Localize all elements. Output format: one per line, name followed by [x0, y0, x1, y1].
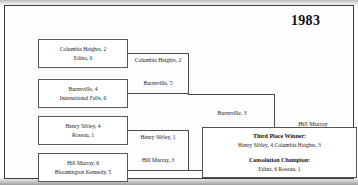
round2-upper-spine	[188, 53, 189, 94]
third-place-result: Henry Sibley, 4 Columbia Heights, 3	[238, 141, 321, 150]
round2-lower-spine	[188, 130, 189, 171]
round2-lower-connector-top	[128, 130, 189, 131]
extras-box: Third Place Winner: Henry Sibley, 4 Colu…	[202, 127, 357, 178]
round2-upper-connector-bottom	[128, 93, 189, 94]
round2-game-2-bottom: Hill Murray, 3	[128, 156, 188, 164]
round2-game-1-bottom: Burnsville, 5	[128, 79, 188, 87]
round2-game-2-top: Henry Sibley, 1	[128, 133, 188, 141]
round2-upper-connector-top	[128, 53, 189, 54]
round1-game-1-bottom: Edina, 0	[74, 54, 93, 63]
tournament-year: 1983	[291, 13, 320, 29]
consolation-label: Consolation Champion:	[249, 155, 310, 165]
round1-game-4-top: Hill Murray, 6	[67, 159, 99, 168]
round1-game-3-bottom: Roseau, 1	[72, 131, 94, 140]
third-place-label: Third Place Winner:	[253, 131, 306, 141]
round1-game-4-bottom: Bloomington Kennedy, 5	[55, 168, 111, 177]
round1-game-3: Henry Sibley, 4 Roseau, 1	[38, 116, 128, 145]
round1-game-2-top: Burnsville, 4	[69, 85, 98, 94]
round1-game-1: Columbia Heights, 2 Edina, 0	[38, 39, 128, 68]
round3-game-top: Burnsville, 3	[190, 109, 274, 117]
round1-game-4: Hill Murray, 6 Bloomington Kennedy, 5	[38, 153, 128, 182]
round1-game-1-top: Columbia Heights, 2	[60, 45, 106, 54]
bracket-sheet: 1983 Columbia Heights, 2 Edina, 0 Burnsv…	[4, 5, 354, 179]
round3-connector-top	[188, 94, 275, 95]
round1-game-3-top: Henry Sibley, 4	[66, 122, 101, 131]
round2-lower-connector-bottom	[128, 170, 189, 171]
round2-game-1-top: Columbia Heights, 2	[128, 56, 188, 64]
champion-name: Hill Murray	[274, 120, 352, 127]
consolation-result: Edina, 6 Roseau, 1	[258, 165, 300, 174]
tournament-bracket-page: 1983 Columbia Heights, 2 Edina, 0 Burnsv…	[0, 0, 358, 185]
round1-game-2-bottom: International Falls, 0	[60, 94, 106, 103]
round1-game-2: Burnsville, 4 International Falls, 0	[38, 79, 128, 108]
